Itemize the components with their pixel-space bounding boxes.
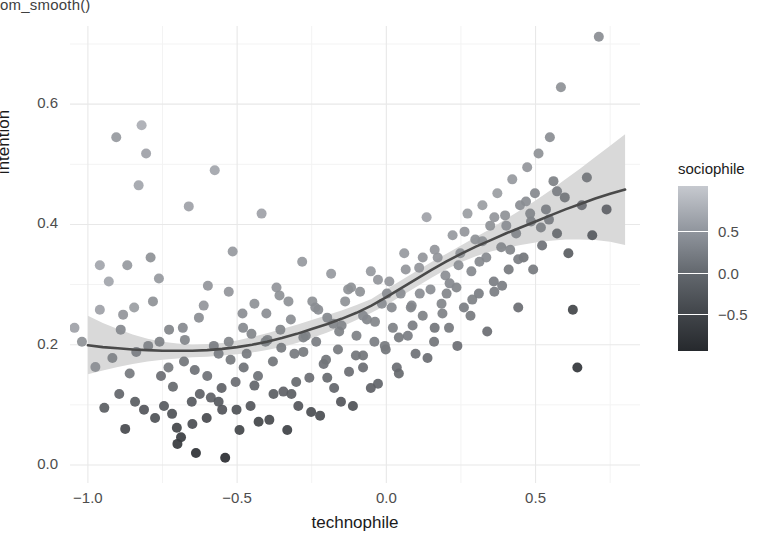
legend-tick-label: 0.5 xyxy=(718,223,739,240)
legend-title: sociophile xyxy=(678,160,783,177)
legend-colorbar xyxy=(678,186,708,351)
legend-tick-mark xyxy=(678,231,708,232)
chart-canvas xyxy=(70,26,640,483)
x-tick-label: 0.0 xyxy=(376,489,397,506)
y-tick-label: 0.2 xyxy=(37,335,58,352)
chart-panel xyxy=(70,26,640,483)
legend: sociophile 0.50.0−0.5 xyxy=(664,160,783,358)
y-axis-title: intention xyxy=(0,52,14,232)
x-axis-ticks: −1.0−0.50.00.5 xyxy=(0,489,783,515)
legend-tick-label: 0.0 xyxy=(718,264,739,281)
legend-tick-mark xyxy=(678,314,708,315)
x-tick-label: −0.5 xyxy=(222,489,252,506)
y-tick-label: 0.4 xyxy=(37,214,58,231)
legend-tick-mark xyxy=(678,273,708,274)
x-tick-label: 0.5 xyxy=(525,489,546,506)
x-axis-title: technophile xyxy=(230,513,480,533)
scatter-points xyxy=(70,32,612,463)
legend-tick-label: −0.5 xyxy=(718,305,748,322)
y-tick-label: 0.6 xyxy=(37,94,58,111)
y-tick-label: 0.0 xyxy=(37,455,58,472)
legend-body: 0.50.0−0.5 xyxy=(664,186,783,358)
x-tick-label: −1.0 xyxy=(73,489,103,506)
plot-root: om_smooth() 0.00.20.40.6 −1.0−0.50.00.5 … xyxy=(0,0,783,539)
